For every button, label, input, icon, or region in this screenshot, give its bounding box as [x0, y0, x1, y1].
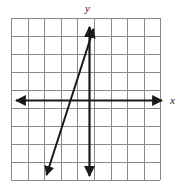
coordinate-plane-svg: [0, 0, 183, 193]
y-axis-label: y: [85, 3, 90, 14]
plotted-line: [47, 29, 94, 175]
grid-lines: [11, 18, 161, 181]
x-axis-label: x: [170, 95, 175, 106]
coordinate-graph-figure: y x: [0, 0, 183, 193]
